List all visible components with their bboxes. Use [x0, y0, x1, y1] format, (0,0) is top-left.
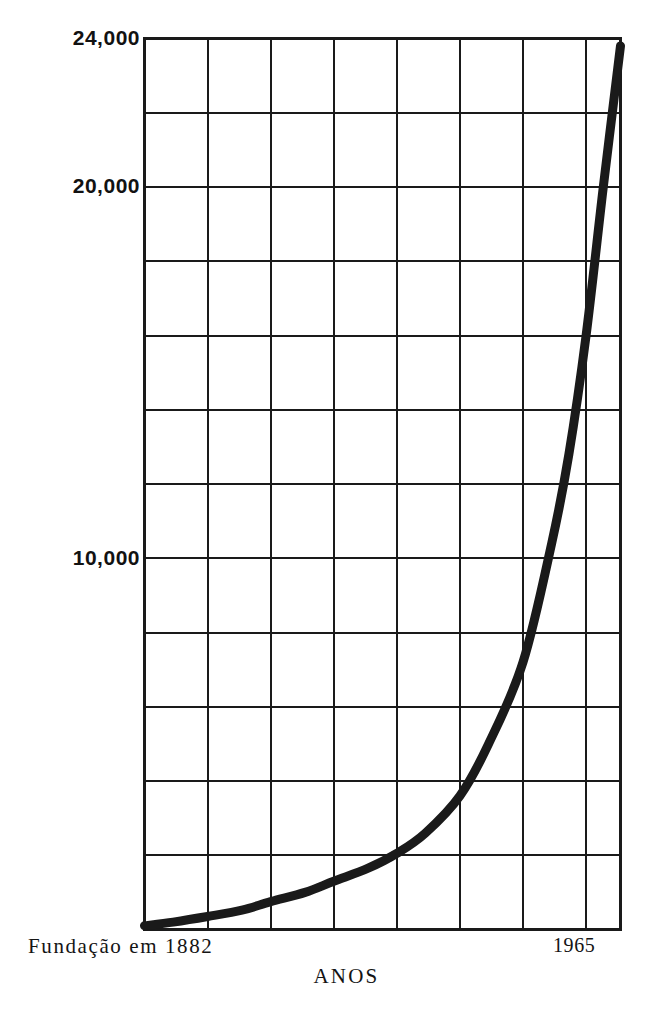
y-tick-label-24000: 24,000 — [16, 27, 140, 48]
x-axis-start-label: Fundação em 1882 — [28, 934, 213, 959]
x-axis-title-text: ANOS — [314, 964, 380, 988]
chart-series-line — [145, 46, 621, 926]
chart-figure: 24,000 20,000 10,000 Fundação em 1882 19… — [0, 0, 657, 1010]
x-axis-title: ANOS — [0, 964, 657, 989]
chart-gridlines — [144, 38, 622, 931]
x-axis-end-label: 1965 — [553, 934, 595, 957]
y-tick-label-10000: 10,000 — [16, 547, 140, 568]
y-axis-tick-labels: 24,000 20,000 10,000 — [0, 0, 140, 1010]
y-tick-label-20000: 20,000 — [16, 175, 140, 196]
